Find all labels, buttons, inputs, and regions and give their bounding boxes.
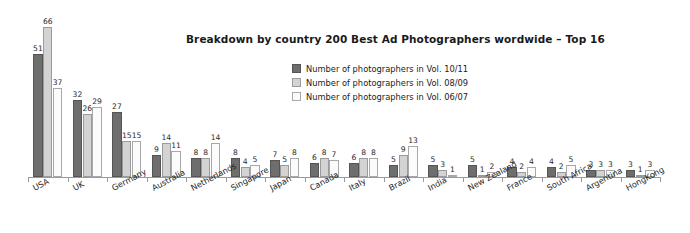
bar-item[interactable]: 3 bbox=[626, 18, 635, 177]
bar-item[interactable]: 26 bbox=[83, 18, 92, 177]
bar-item[interactable]: 3 bbox=[586, 18, 595, 177]
bar[interactable] bbox=[112, 112, 121, 177]
bar-item[interactable]: 14 bbox=[162, 18, 171, 177]
bar-item[interactable]: 37 bbox=[53, 18, 62, 177]
bar-item[interactable]: 8 bbox=[320, 18, 329, 177]
bar-value-label: 5 bbox=[431, 156, 436, 164]
bar[interactable] bbox=[310, 163, 319, 177]
axis-tick bbox=[305, 177, 306, 182]
bar-group-bars: 531 bbox=[428, 18, 457, 177]
bar-item[interactable]: 4 bbox=[507, 18, 516, 177]
bar[interactable] bbox=[162, 143, 171, 177]
bar-value-label: 1 bbox=[450, 166, 455, 174]
bar-item[interactable]: 2 bbox=[517, 18, 526, 177]
bar-group-bars: 8814 bbox=[191, 18, 220, 177]
bar-item[interactable]: 3 bbox=[606, 18, 615, 177]
bar-item[interactable]: 7 bbox=[329, 18, 338, 177]
bar-item[interactable]: 4 bbox=[241, 18, 250, 177]
bar-item[interactable]: 3 bbox=[438, 18, 447, 177]
bar-item[interactable]: 13 bbox=[408, 18, 417, 177]
axis-tick bbox=[502, 177, 503, 182]
bar-item[interactable]: 5 bbox=[428, 18, 437, 177]
bar[interactable] bbox=[349, 163, 358, 177]
bar-item[interactable]: 3 bbox=[645, 18, 654, 177]
axis-tick bbox=[265, 177, 266, 182]
bar[interactable] bbox=[152, 155, 161, 177]
bar[interactable] bbox=[448, 175, 457, 177]
bar[interactable] bbox=[83, 114, 92, 177]
bar-item[interactable]: 6 bbox=[349, 18, 358, 177]
bar-item[interactable]: 66 bbox=[43, 18, 52, 177]
bar[interactable] bbox=[122, 141, 131, 177]
bar-item[interactable]: 5 bbox=[468, 18, 477, 177]
bar-item[interactable]: 1 bbox=[478, 18, 487, 177]
bar-item[interactable]: 8 bbox=[231, 18, 240, 177]
bar[interactable] bbox=[191, 158, 200, 177]
plot-area: 5166373226292715159141188148457586876885… bbox=[28, 18, 660, 177]
bar-item[interactable]: 32 bbox=[73, 18, 82, 177]
axis-tick bbox=[147, 177, 148, 182]
bar-group-bars: 516637 bbox=[33, 18, 62, 177]
bar-item[interactable]: 7 bbox=[270, 18, 279, 177]
bar[interactable] bbox=[369, 158, 378, 177]
bar-item[interactable]: 2 bbox=[487, 18, 496, 177]
bar-item[interactable]: 1 bbox=[448, 18, 457, 177]
bar-group-bars: 333 bbox=[586, 18, 615, 177]
bar-item[interactable]: 9 bbox=[399, 18, 408, 177]
bar-item[interactable]: 4 bbox=[527, 18, 536, 177]
bar[interactable] bbox=[290, 158, 299, 177]
category-label: USA bbox=[31, 176, 51, 193]
bar-item[interactable]: 29 bbox=[92, 18, 101, 177]
bar[interactable] bbox=[73, 100, 82, 177]
bar-value-label: 8 bbox=[233, 149, 238, 157]
bar[interactable] bbox=[43, 27, 52, 177]
bar-item[interactable]: 5 bbox=[389, 18, 398, 177]
bar-value-label: 8 bbox=[322, 149, 327, 157]
bar-value-label: 8 bbox=[203, 149, 208, 157]
bar-value-label: 3 bbox=[648, 161, 653, 169]
bar-value-label: 5 bbox=[569, 156, 574, 164]
axis-tick bbox=[226, 177, 227, 182]
bar-item[interactable]: 15 bbox=[132, 18, 141, 177]
bar-value-label: 27 bbox=[112, 103, 122, 111]
bar-item[interactable]: 8 bbox=[201, 18, 210, 177]
axis-tick bbox=[344, 177, 345, 182]
bar-item[interactable]: 27 bbox=[112, 18, 121, 177]
bar-group-bars: 845 bbox=[231, 18, 260, 177]
bar[interactable] bbox=[468, 165, 477, 177]
bar-item[interactable]: 5 bbox=[250, 18, 259, 177]
bar-item[interactable]: 3 bbox=[596, 18, 605, 177]
bar-value-label: 26 bbox=[82, 105, 92, 113]
bar[interactable] bbox=[53, 88, 62, 177]
bar[interactable] bbox=[92, 107, 101, 177]
bar[interactable] bbox=[626, 170, 635, 177]
bar-item[interactable]: 5 bbox=[280, 18, 289, 177]
bar-value-label: 5 bbox=[253, 156, 258, 164]
bar-group-bars: 687 bbox=[310, 18, 339, 177]
bar-item[interactable]: 8 bbox=[369, 18, 378, 177]
bar[interactable] bbox=[33, 54, 42, 177]
bar[interactable] bbox=[389, 165, 398, 177]
bar-item[interactable]: 51 bbox=[33, 18, 42, 177]
bar-item[interactable]: 8 bbox=[290, 18, 299, 177]
bar[interactable] bbox=[359, 158, 368, 177]
bar-item[interactable]: 5 bbox=[566, 18, 575, 177]
bar-item[interactable]: 8 bbox=[191, 18, 200, 177]
bar-group-bars: 424 bbox=[507, 18, 536, 177]
bar-value-label: 37 bbox=[53, 79, 63, 87]
bar-item[interactable]: 4 bbox=[547, 18, 556, 177]
bar-item[interactable]: 15 bbox=[122, 18, 131, 177]
bar-item[interactable]: 8 bbox=[359, 18, 368, 177]
bar-item[interactable]: 1 bbox=[636, 18, 645, 177]
bar[interactable] bbox=[270, 160, 279, 177]
bar-item[interactable]: 2 bbox=[557, 18, 566, 177]
bar-item[interactable]: 9 bbox=[152, 18, 161, 177]
bar[interactable] bbox=[547, 167, 556, 177]
bar-item[interactable]: 14 bbox=[211, 18, 220, 177]
bar-item[interactable]: 11 bbox=[171, 18, 180, 177]
bar[interactable] bbox=[428, 165, 437, 177]
bar-value-label: 1 bbox=[638, 166, 643, 174]
bar-value-label: 2 bbox=[559, 163, 564, 171]
bar-item[interactable]: 6 bbox=[310, 18, 319, 177]
bar[interactable] bbox=[408, 146, 417, 177]
